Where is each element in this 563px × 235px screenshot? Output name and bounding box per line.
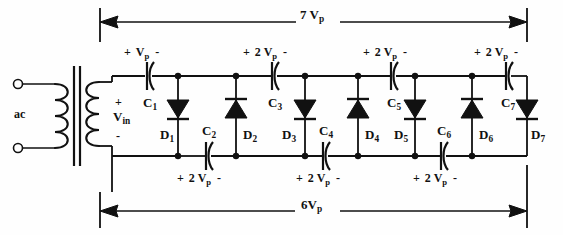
top-dimension-label: 7 Vp [300, 8, 324, 24]
vin-label: Vin [113, 110, 130, 126]
diode-D7 [516, 100, 538, 119]
diode-label-D2: D2 [243, 128, 257, 144]
diode-letter: D [282, 127, 291, 142]
capacitor-label-C1: C1 [143, 96, 157, 112]
bottom-dimension-label: 6Vp [301, 198, 322, 214]
diode-label-D3: D3 [282, 128, 296, 144]
voltage-value: 2 Vp [486, 45, 508, 59]
voltage-value: 2 Vp [308, 171, 330, 185]
cap-letter: C [437, 123, 446, 138]
capacitor-voltage-C4: +2 Vp- [296, 172, 340, 186]
capacitor-label-C6: C6 [437, 124, 451, 140]
voltage-value: 2 Vp [255, 45, 277, 59]
diode-D1 [167, 100, 189, 119]
diode-D5 [404, 100, 426, 119]
cap-index: 3 [277, 102, 282, 112]
polarity-plus: + [413, 171, 420, 185]
circuit-diagram-canvas: ac + Vin - 7 Vp 6Vp C1+Vp-C2+2 Vp-C3+2 V… [0, 0, 563, 235]
polarity-minus: - [403, 45, 407, 59]
polarity-plus: + [296, 171, 303, 185]
diode-index: 4 [374, 134, 379, 144]
capacitor-label-C3: C3 [268, 96, 282, 112]
capacitor-label-C2: C2 [202, 124, 216, 140]
diode-D6 [461, 99, 483, 118]
capacitor-voltage-C7: +2 Vp- [474, 46, 518, 60]
vin-minus-sign: - [116, 130, 120, 142]
diode-label-D5: D5 [394, 128, 408, 144]
capacitor-label-C7: C7 [501, 96, 515, 112]
voltage-value: 2 Vp [425, 171, 447, 185]
polarity-plus: + [124, 45, 131, 59]
capacitor-label-C5: C5 [387, 96, 401, 112]
cap-index: 6 [446, 130, 451, 140]
polarity-plus: + [474, 45, 481, 59]
diode-index: 3 [291, 134, 296, 144]
diode-index: 5 [403, 134, 408, 144]
capacitor-voltage-C5: +2 Vp- [363, 46, 407, 60]
diode-label-D1: D1 [160, 128, 174, 144]
diode-letter: D [365, 127, 374, 142]
polarity-plus: + [177, 171, 184, 185]
transformer-core [74, 66, 80, 166]
polarity-plus: + [363, 45, 370, 59]
cap-letter: C [202, 123, 211, 138]
diode-letter: D [243, 127, 252, 142]
cap-index: 5 [396, 102, 401, 112]
capacitor-voltage-C3: +2 Vp- [243, 46, 287, 60]
transformer-primary-coil [55, 84, 68, 148]
capacitor-label-C4: C4 [319, 124, 333, 140]
cap-index: 2 [211, 130, 216, 140]
voltage-value: Vp [136, 45, 149, 59]
voltage-value: 2 Vp [375, 45, 397, 59]
capacitor-voltage-C1: +Vp- [124, 46, 159, 60]
diode-D3 [294, 100, 316, 119]
diode-index: 6 [488, 134, 493, 144]
polarity-minus: - [453, 171, 457, 185]
ac-source-label: ac [14, 108, 25, 120]
diode-D4 [347, 99, 369, 118]
diode-index: 2 [252, 134, 257, 144]
cap-index: 4 [328, 130, 333, 140]
polarity-minus: - [155, 45, 159, 59]
cap-letter: C [501, 95, 510, 110]
cap-index: 1 [152, 102, 157, 112]
polarity-minus: - [217, 171, 221, 185]
diode-D2 [225, 99, 247, 118]
diode-label-D7: D7 [531, 128, 545, 144]
transformer-secondary-coil [86, 82, 99, 146]
diode-index: 7 [540, 134, 545, 144]
cap-letter: C [143, 95, 152, 110]
diode-letter: D [479, 127, 488, 142]
junction-dots [175, 73, 475, 159]
polarity-minus: - [514, 45, 518, 59]
polarity-minus: - [283, 45, 287, 59]
cap-index: 7 [510, 102, 515, 112]
diode-letter: D [394, 127, 403, 142]
diode-letter: D [531, 127, 540, 142]
diode-label-D4: D4 [365, 128, 379, 144]
circuit-schematic-svg [0, 0, 563, 235]
diode-index: 1 [169, 134, 174, 144]
diode-label-D6: D6 [479, 128, 493, 144]
cap-letter: C [319, 123, 328, 138]
vin-plus-sign: + [115, 96, 122, 108]
polarity-minus: - [336, 171, 340, 185]
voltage-value: 2 Vp [189, 171, 211, 185]
cap-letter: C [268, 95, 277, 110]
polarity-plus: + [243, 45, 250, 59]
capacitor-voltage-C2: +2 Vp- [177, 172, 221, 186]
diode-letter: D [160, 127, 169, 142]
capacitor-voltage-C6: +2 Vp- [413, 172, 457, 186]
cap-letter: C [387, 95, 396, 110]
